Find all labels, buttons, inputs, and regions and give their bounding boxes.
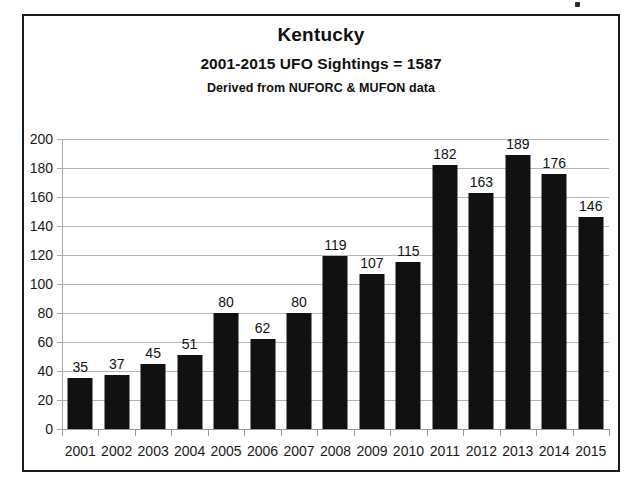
x-axis-tick (244, 429, 245, 436)
x-axis-label: 2001 (65, 443, 96, 459)
bar-slot: 80 (208, 139, 244, 429)
bar-slot: 80 (281, 139, 317, 429)
chart-source-note: Derived from NUFORC & MUFON data (24, 78, 618, 98)
x-axis-label: 2008 (320, 443, 351, 459)
y-axis-label: 60 (37, 334, 53, 350)
bar-value-label: 107 (360, 255, 383, 271)
x-axis-label: 2009 (356, 443, 387, 459)
x-axis-tick (609, 429, 610, 436)
bar-value-label: 80 (291, 294, 307, 310)
bar[interactable] (68, 378, 93, 429)
x-axis-tick (427, 429, 428, 436)
bar-slot: 62 (244, 139, 280, 429)
x-axis-label: 2006 (247, 443, 278, 459)
x-axis-tick (463, 429, 464, 436)
x-axis-label: 2002 (101, 443, 132, 459)
bar-value-label: 176 (543, 155, 566, 171)
x-axis-label: 2005 (211, 443, 242, 459)
x-axis-tick (208, 429, 209, 436)
x-axis-tick (62, 429, 63, 436)
y-axis-label: 100 (30, 276, 53, 292)
x-axis-tick (536, 429, 537, 436)
bar[interactable] (287, 313, 312, 429)
bar-slot: 176 (536, 139, 572, 429)
x-axis-tick (500, 429, 501, 436)
bars-layer: 35374551806280119107115182163189176146 (62, 139, 609, 429)
x-axis: 2001200220032004200520062007200820092010… (62, 429, 609, 475)
bar[interactable] (177, 355, 202, 429)
y-axis-label: 40 (37, 363, 53, 379)
bar[interactable] (542, 174, 567, 429)
bar-value-label: 146 (579, 198, 602, 214)
bar[interactable] (104, 375, 129, 429)
bar-slot: 45 (135, 139, 171, 429)
bar-value-label: 51 (182, 336, 198, 352)
bar-slot: 163 (463, 139, 499, 429)
x-axis-tick (281, 429, 282, 436)
x-axis-label: 2012 (466, 443, 497, 459)
x-axis-label: 2011 (430, 443, 460, 459)
bar[interactable] (432, 165, 457, 429)
x-axis-tick (135, 429, 136, 436)
x-axis-label: 2014 (539, 443, 570, 459)
bar-value-label: 45 (145, 345, 161, 361)
y-axis-label: 200 (30, 131, 53, 147)
x-axis-label: 2007 (283, 443, 314, 459)
bar-slot: 37 (98, 139, 134, 429)
bar-slot: 51 (171, 139, 207, 429)
chart-subtitle: 2001-2015 UFO Sightings = 1587 (24, 52, 618, 76)
chart-title: Kentucky (24, 22, 618, 48)
y-axis-label: 120 (30, 247, 53, 263)
bar-slot: 115 (390, 139, 426, 429)
chart-frame: Kentucky 2001-2015 UFO Sightings = 1587 … (22, 14, 620, 472)
bar-slot: 107 (354, 139, 390, 429)
bar-value-label: 115 (397, 243, 419, 259)
bar[interactable] (323, 256, 348, 429)
bar[interactable] (469, 193, 494, 429)
x-axis-label: 2013 (502, 443, 533, 459)
x-axis-tick (573, 429, 574, 436)
bar-value-label: 182 (433, 146, 456, 162)
y-axis-label: 180 (30, 160, 53, 176)
title-block: Kentucky 2001-2015 UFO Sightings = 1587 … (24, 22, 618, 98)
y-axis-label: 80 (37, 305, 53, 321)
x-axis-label: 2015 (575, 443, 606, 459)
bar-value-label: 62 (255, 320, 271, 336)
bar[interactable] (214, 313, 239, 429)
bar-slot: 189 (500, 139, 536, 429)
bar-value-label: 37 (109, 356, 125, 372)
bar-slot: 182 (427, 139, 463, 429)
bar-value-label: 80 (218, 294, 234, 310)
bar-slot: 146 (573, 139, 609, 429)
x-axis-tick (317, 429, 318, 436)
x-axis-line (62, 429, 609, 430)
y-axis-label: 160 (30, 189, 53, 205)
scan-artifact-speck (575, 2, 580, 7)
x-axis-label: 2003 (138, 443, 169, 459)
bar[interactable] (578, 217, 603, 429)
x-axis-tick (98, 429, 99, 436)
bar[interactable] (396, 262, 421, 429)
x-axis-label: 2010 (393, 443, 424, 459)
bar-value-label: 35 (72, 359, 88, 375)
bar[interactable] (141, 364, 166, 429)
bar-value-label: 163 (470, 174, 493, 190)
bar-value-label: 189 (506, 136, 529, 152)
bar-slot: 119 (317, 139, 353, 429)
bar[interactable] (359, 274, 384, 429)
bar[interactable] (250, 339, 275, 429)
y-axis-label: 0 (45, 421, 53, 437)
y-axis-label: 20 (37, 392, 53, 408)
x-axis-label: 2004 (174, 443, 205, 459)
bar-slot: 35 (62, 139, 98, 429)
x-axis-tick (171, 429, 172, 436)
x-axis-tick (354, 429, 355, 436)
y-axis-label: 140 (30, 218, 53, 234)
bar[interactable] (505, 155, 530, 429)
bar-value-label: 119 (324, 237, 346, 253)
plot-area: 020406080100120140160180200 353745518062… (62, 139, 609, 429)
x-axis-tick (390, 429, 391, 436)
